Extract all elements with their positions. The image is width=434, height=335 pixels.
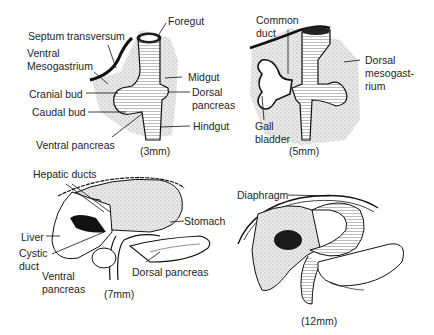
label-foregut: Foregut xyxy=(168,15,204,27)
label-stomach: Stomach xyxy=(184,215,225,227)
panel-7mm-drawing xyxy=(46,178,210,280)
label-cystic-duct-2: duct xyxy=(19,260,39,272)
stage-label-5mm: (5mm) xyxy=(289,145,319,157)
label-hepatic-ducts: Hepatic ducts xyxy=(33,168,97,180)
label-dorsal-mesogastrium-2: mesogast- xyxy=(365,67,414,79)
label-common-duct-1: Common xyxy=(256,14,299,26)
label-ventral-pancreas: Ventral pancreas xyxy=(36,139,115,151)
embryology-figure: Foregut Septum transversum Ventral Mesog… xyxy=(0,0,434,335)
label-gall-bladder-1: Gall xyxy=(255,120,274,132)
label-dorsal-pancreas: Dorsal pancreas xyxy=(132,266,208,278)
label-caudal-bud: Caudal bud xyxy=(32,106,86,118)
label-diaphragm: Diaphragm xyxy=(237,189,288,201)
label-ventral-pancreas-1: Ventral xyxy=(42,270,75,282)
stage-label-12mm: (12mm) xyxy=(301,315,337,327)
label-hindgut: Hindgut xyxy=(193,120,229,132)
label-common-duct-2: duct xyxy=(256,27,276,39)
label-gall-bladder-2: bladder xyxy=(255,133,290,145)
label-ventral-pancreas-2: pancreas xyxy=(42,283,85,295)
label-dorsal-mesogastrium-3: rium xyxy=(365,80,385,92)
label-cranial-bud: Cranial bud xyxy=(29,88,83,100)
label-septum-transversum: Septum transversum xyxy=(28,30,125,42)
stage-label-7mm: (7mm) xyxy=(104,288,134,300)
label-liver: Liver xyxy=(21,231,44,243)
label-dorsal-pancreas-2: pancreas xyxy=(192,99,235,111)
label-ventral-mesogastrium-2: Mesogastrium xyxy=(27,60,93,72)
panel-12mm-drawing xyxy=(238,195,404,304)
label-dorsal-mesogastrium-1: Dorsal xyxy=(365,54,395,66)
label-dorsal-pancreas-1: Dorsal xyxy=(192,86,222,98)
stage-label-3mm: (3mm) xyxy=(140,145,170,157)
label-cystic-duct-1: Cystic xyxy=(19,247,48,259)
label-ventral-mesogastrium-1: Ventral xyxy=(27,47,60,59)
label-midgut: Midgut xyxy=(188,71,220,83)
